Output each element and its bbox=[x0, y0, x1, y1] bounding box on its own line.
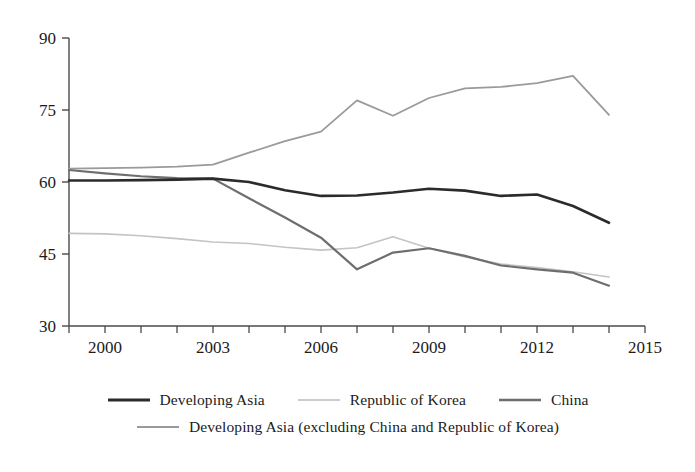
x-axis-tick-label: 2015 bbox=[628, 338, 662, 357]
series-line-developing-asia bbox=[69, 179, 609, 223]
x-axis-tick-label: 2009 bbox=[412, 338, 446, 357]
legend-line-swatch bbox=[107, 391, 151, 409]
series-line-republic-of-korea bbox=[69, 233, 609, 277]
y-axis: 3045607590 bbox=[39, 29, 69, 336]
y-axis-tick-label: 45 bbox=[39, 245, 56, 264]
line-chart-svg: 3045607590 200020032006200920122015 bbox=[0, 0, 695, 360]
x-axis-tick-label: 2000 bbox=[88, 338, 122, 357]
y-axis-tick-label: 60 bbox=[39, 173, 56, 192]
y-axis-tick-label: 90 bbox=[39, 29, 56, 48]
y-axis-tick-label: 30 bbox=[39, 317, 56, 336]
series-line-developing-asia-excluding-china-and-republic-of-korea bbox=[69, 76, 609, 169]
chart-legend: Developing AsiaRepublic of KoreaChina De… bbox=[0, 386, 695, 440]
legend-label: Republic of Korea bbox=[350, 392, 466, 408]
plot-area: 3045607590 200020032006200920122015 bbox=[0, 0, 695, 360]
x-axis-tick-label: 2003 bbox=[196, 338, 230, 357]
legend-label: Developing Asia (excluding China and Rep… bbox=[189, 419, 559, 435]
chart-figure: 3045607590 200020032006200920122015 Deve… bbox=[0, 0, 695, 472]
legend-label: Developing Asia bbox=[160, 392, 265, 408]
legend-row-secondary: Developing Asia (excluding China and Rep… bbox=[0, 413, 695, 440]
legend-line-swatch bbox=[297, 391, 341, 409]
x-axis: 200020032006200920122015 bbox=[69, 326, 662, 357]
series-line-china bbox=[69, 170, 609, 286]
x-axis-tick-label: 2006 bbox=[304, 338, 338, 357]
legend-label: China bbox=[551, 392, 589, 408]
legend-entry: China bbox=[498, 391, 589, 409]
legend-line-swatch bbox=[498, 391, 542, 409]
y-axis-tick-label: 75 bbox=[39, 101, 56, 120]
x-axis-tick-label: 2012 bbox=[520, 338, 554, 357]
legend-entry: Republic of Korea bbox=[297, 391, 466, 409]
legend-entry: Developing Asia (excluding China and Rep… bbox=[136, 418, 559, 436]
data-series-group bbox=[69, 76, 609, 286]
legend-row-primary: Developing AsiaRepublic of KoreaChina bbox=[0, 386, 695, 413]
legend-entry: Developing Asia bbox=[107, 391, 265, 409]
legend-line-swatch bbox=[136, 418, 180, 436]
